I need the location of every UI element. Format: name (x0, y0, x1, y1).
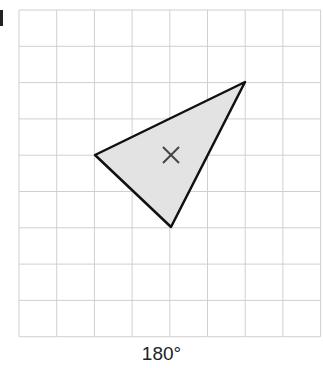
grid-diagram (0, 0, 323, 340)
rotation-angle-label: 180° (0, 343, 323, 365)
